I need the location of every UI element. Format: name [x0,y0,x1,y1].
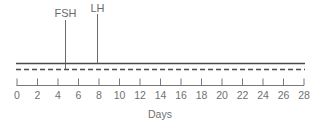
x-axis-ticks: 0246810121416182022242628 [14,79,310,102]
x-tick-label: 28 [298,89,310,101]
x-tick-label: 18 [196,89,208,101]
x-tick-label: 10 [114,89,126,101]
x-tick-label: 4 [55,89,61,101]
fsh-label: FSH [55,7,77,19]
x-tick-label: 0 [14,89,20,101]
x-axis-title: Days [148,108,172,120]
hormone-timeline-diagram: FSH LH 0246810121416182022242628 Days [0,0,322,127]
x-tick-label: 14 [155,89,167,101]
x-tick-label: 24 [257,89,269,101]
x-tick-label: 8 [96,89,102,101]
x-tick-label: 2 [35,89,41,101]
x-tick-label: 16 [175,89,187,101]
lh-label: LH [90,2,104,14]
x-tick-label: 6 [76,89,82,101]
x-tick-label: 12 [134,89,146,101]
x-tick-label: 22 [237,89,249,101]
x-tick-label: 20 [216,89,228,101]
x-tick-label: 26 [278,89,290,101]
